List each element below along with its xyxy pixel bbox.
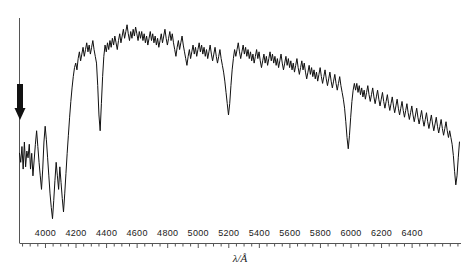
x-axis-title: λ/Å <box>233 252 248 264</box>
x-tick-label: 6200 <box>371 228 392 238</box>
x-tick-label: 5800 <box>310 228 331 238</box>
x-tick-label: 5000 <box>188 228 209 238</box>
x-tick-label: 6000 <box>340 228 361 238</box>
x-tick-label: 4000 <box>35 228 56 238</box>
x-tick-label: 5400 <box>249 228 270 238</box>
x-tick-label: 4800 <box>157 228 178 238</box>
x-tick-label: 4400 <box>96 228 117 238</box>
spectrum-figure: 4000420044004600480050005200540056005800… <box>0 0 469 276</box>
down-arrow-marker <box>15 84 26 120</box>
x-tick-label: 4200 <box>65 228 86 238</box>
x-axis-title-text: λ/Å <box>233 252 248 264</box>
spectrum-trace <box>20 25 460 219</box>
x-tick-label: 6400 <box>401 228 422 238</box>
x-tick-label: 5200 <box>218 228 239 238</box>
x-axis-ticks <box>23 244 458 248</box>
x-tick-label: 5600 <box>279 228 300 238</box>
x-tick-label: 4600 <box>127 228 148 238</box>
